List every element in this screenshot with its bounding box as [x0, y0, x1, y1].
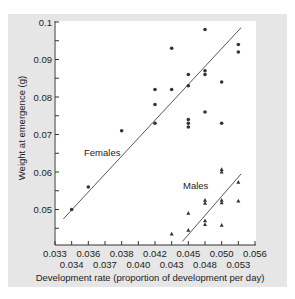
x-tick-label: 0.048: [193, 259, 217, 270]
females-point: [87, 185, 91, 189]
x-tick-label: 0.050: [210, 248, 234, 259]
x-tick-label: 0.042: [143, 248, 167, 259]
scatter-chart: 0.10.090.080.070.060.050.0330.0340.0360.…: [0, 0, 295, 299]
females-point: [170, 46, 174, 50]
x-axis-title: Development rate (proportion of developm…: [36, 272, 265, 283]
plot-area: [54, 21, 256, 245]
females-point: [203, 73, 207, 77]
x-tick-label: 0.033: [43, 248, 67, 259]
females-point: [187, 121, 191, 125]
x-tick-label: 0.045: [176, 248, 200, 259]
x-tick-label: 0.038: [110, 248, 134, 259]
y-tick-label: 0.06: [34, 167, 53, 178]
females-point: [153, 103, 157, 107]
y-tick-label: 0.08: [34, 92, 53, 103]
females-point: [220, 121, 224, 125]
females-point: [170, 88, 174, 92]
females-point: [203, 28, 207, 32]
x-tick-label: 0.034: [60, 259, 84, 270]
y-tick-label: 0.07: [34, 129, 53, 140]
y-tick-label: 0.1: [39, 17, 52, 28]
females-point: [237, 43, 241, 47]
females-point: [203, 69, 207, 73]
females-point: [237, 50, 241, 54]
females-point: [70, 208, 74, 212]
y-tick-label: 0.05: [34, 204, 53, 215]
females-point: [187, 84, 191, 88]
y-tick-label: 0.09: [34, 54, 53, 65]
x-tick-label: 0.056: [243, 248, 267, 259]
females-point: [187, 73, 191, 77]
x-tick-label: 0.053: [226, 259, 250, 270]
x-tick-label: 0.043: [160, 259, 184, 270]
females-point: [187, 118, 191, 122]
x-tick-label: 0.036: [76, 248, 100, 259]
x-tick-label: 0.037: [93, 259, 117, 270]
females-point: [203, 110, 207, 114]
females-point: [220, 80, 224, 84]
females-label: Females: [84, 147, 121, 158]
x-tick-label: 0.040: [126, 259, 150, 270]
y-axis-title: Weight at emergence (g): [16, 76, 27, 180]
females-point: [153, 88, 157, 92]
males-label: Males: [183, 180, 209, 191]
females-point: [187, 125, 191, 129]
females-point: [153, 121, 157, 125]
females-point: [120, 129, 124, 133]
